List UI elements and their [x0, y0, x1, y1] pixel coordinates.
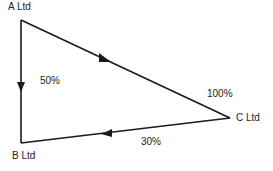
edge-c-to-b [21, 118, 230, 143]
node-a-label: A Ltd [8, 1, 31, 12]
arrow-down-icon [17, 82, 25, 92]
arrow-right-icon [99, 53, 111, 62]
edge-a-to-c [21, 20, 230, 118]
edge-a-c-percent: 100% [207, 88, 233, 99]
node-c-label: C Ltd [236, 112, 260, 123]
edge-c-b-percent: 30% [141, 136, 161, 147]
edge-a-b-percent: 50% [40, 75, 60, 86]
node-b-label: B Ltd [12, 150, 35, 161]
